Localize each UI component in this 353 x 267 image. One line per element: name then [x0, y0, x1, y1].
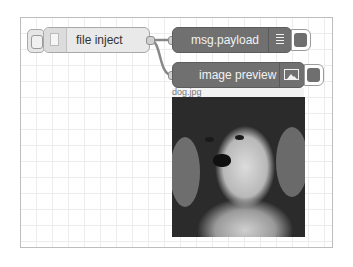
- file-inject-label: file inject: [76, 33, 123, 47]
- dog-nose: [213, 154, 231, 167]
- dog-eye-right: [235, 135, 244, 140]
- image-preview-toggle-inner: [307, 68, 320, 82]
- image-preview-label: image preview: [199, 68, 276, 82]
- msg-payload-debug-node[interactable]: msg.payload: [172, 27, 292, 53]
- list-icon: [276, 34, 284, 46]
- file-icon: [50, 33, 59, 46]
- image-icon: [284, 69, 299, 80]
- msg-payload-icon-area: [268, 28, 291, 52]
- image-preview-caption: dog.jpg: [172, 88, 304, 97]
- file-inject-icon-area: [44, 28, 67, 52]
- image-preview-picture: [172, 97, 305, 237]
- wire-file-inject-to-image-preview[interactable]: [150, 40, 172, 75]
- image-preview-node[interactable]: image preview: [172, 62, 305, 88]
- inject-button-inner: [31, 35, 43, 49]
- dog-eye-left: [205, 137, 214, 142]
- msg-payload-label: msg.payload: [191, 33, 259, 47]
- image-icon-mountain-small: [291, 76, 297, 79]
- file-inject-output-port[interactable]: [146, 36, 155, 45]
- image-preview-icon-area: [279, 63, 304, 87]
- dog-ear-left: [172, 137, 200, 207]
- msg-payload-toggle-inner: [294, 33, 307, 47]
- file-inject-node[interactable]: file inject: [43, 27, 150, 53]
- msg-payload-toggle-button[interactable]: [291, 29, 311, 51]
- dog-ear-right: [276, 127, 305, 197]
- image-preview-toggle-button[interactable]: [304, 64, 324, 86]
